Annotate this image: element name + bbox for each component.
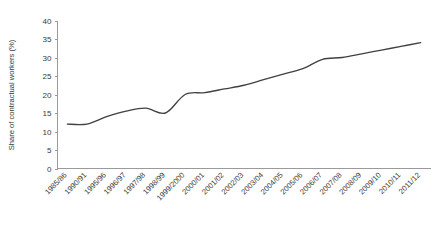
y-tick-label: 10 [43,128,52,137]
y-tick-label: 0 [47,165,52,174]
chart-background [0,0,439,232]
y-tick-label: 30 [43,54,52,63]
y-tick-label: 5 [47,146,52,155]
chart-canvas: Share of contractual workers (%) 0510152… [0,0,439,232]
y-tick-label: 20 [43,91,52,100]
y-tick-label: 15 [43,109,52,118]
y-tick-label: 40 [43,17,52,26]
line-chart: Share of contractual workers (%) 0510152… [0,0,439,232]
y-axis-title-text: Share of contractual workers (%) [7,39,16,150]
y-tick-label: 25 [43,72,52,81]
y-axis-title: Share of contractual workers (%) [7,39,16,150]
y-tick-label: 35 [43,35,52,44]
